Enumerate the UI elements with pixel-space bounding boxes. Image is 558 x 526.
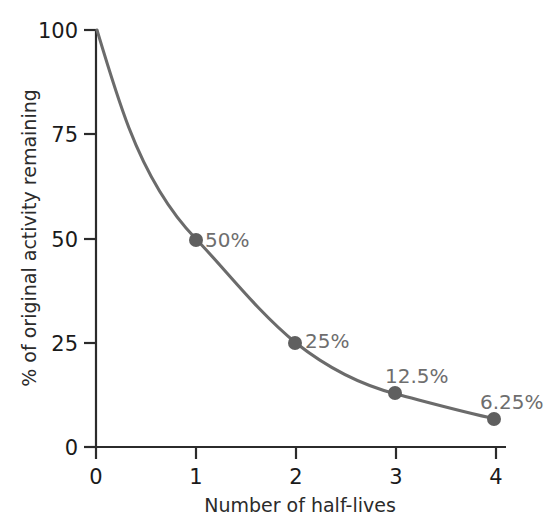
- y-tick-label-50: 50: [51, 228, 78, 252]
- y-tick-label-100: 100: [38, 19, 78, 43]
- data-point-label-25: 25%: [305, 329, 349, 353]
- y-tick-label-0: 0: [65, 436, 78, 460]
- x-tick-label-2: 2: [289, 465, 302, 489]
- data-point-label-50: 50%: [205, 228, 249, 252]
- x-tick-label-1: 1: [189, 465, 202, 489]
- y-axis-title: % of original activity remaining: [18, 89, 40, 387]
- data-point-marker: [388, 386, 402, 400]
- data-point-marker: [487, 412, 501, 426]
- x-tick-label-0: 0: [89, 465, 102, 489]
- y-tick-label-25: 25: [51, 332, 78, 356]
- x-tick-label-4: 4: [489, 465, 502, 489]
- data-point-label-6-25: 6.25%: [480, 390, 544, 414]
- data-point-marker: [189, 233, 203, 247]
- decay-curve-chart: 100 75 50 25 0 0 1 2 3 4 % of original a…: [0, 0, 558, 526]
- data-point-label-12-5: 12.5%: [385, 364, 449, 388]
- x-tick-label-3: 3: [389, 465, 402, 489]
- y-tick-label-75: 75: [51, 123, 78, 147]
- chart-container: 100 75 50 25 0 0 1 2 3 4 % of original a…: [0, 0, 558, 526]
- data-point-marker: [288, 336, 302, 350]
- x-axis-title: Number of half-lives: [204, 494, 396, 516]
